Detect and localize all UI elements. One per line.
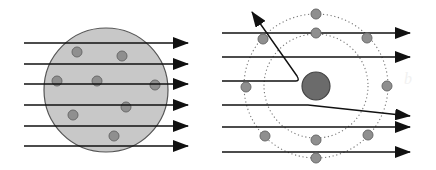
electron (362, 33, 372, 43)
rutherford-model (222, 9, 410, 163)
electron (68, 110, 78, 120)
electron (260, 131, 270, 141)
faint-label: b (404, 70, 412, 88)
electron (121, 102, 131, 112)
electron (311, 9, 321, 19)
alpha-ray-arrow (222, 105, 410, 116)
electron (363, 130, 373, 140)
alpha-ray-arrow (222, 12, 298, 81)
electron (382, 81, 392, 91)
electron (109, 131, 119, 141)
electron (258, 34, 268, 44)
scattering-diagram (0, 0, 436, 170)
nucleus (302, 72, 330, 100)
positive-sphere (44, 28, 168, 152)
electron (311, 153, 321, 163)
electron (72, 47, 82, 57)
electron (241, 82, 251, 92)
thomson-model (24, 28, 188, 152)
electron (311, 135, 321, 145)
electron (311, 28, 321, 38)
electron (150, 80, 160, 90)
electron (117, 51, 127, 61)
